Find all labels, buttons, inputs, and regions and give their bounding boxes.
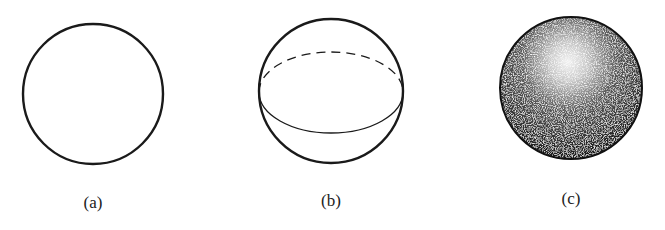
figure-canvas: (a) (b) (c) (0, 0, 665, 230)
circle-outline (23, 24, 163, 164)
panel-a-label: (a) (84, 193, 103, 212)
equator-back-dashed (259, 52, 403, 92)
sphere-outline (259, 19, 403, 163)
panel-b-label: (b) (321, 191, 341, 210)
equator-front-solid (259, 92, 403, 133)
panel-c: (c) (499, 16, 643, 208)
panel-b: (b) (259, 19, 403, 210)
panel-c-label: (c) (562, 189, 581, 208)
panel-a: (a) (23, 24, 163, 212)
